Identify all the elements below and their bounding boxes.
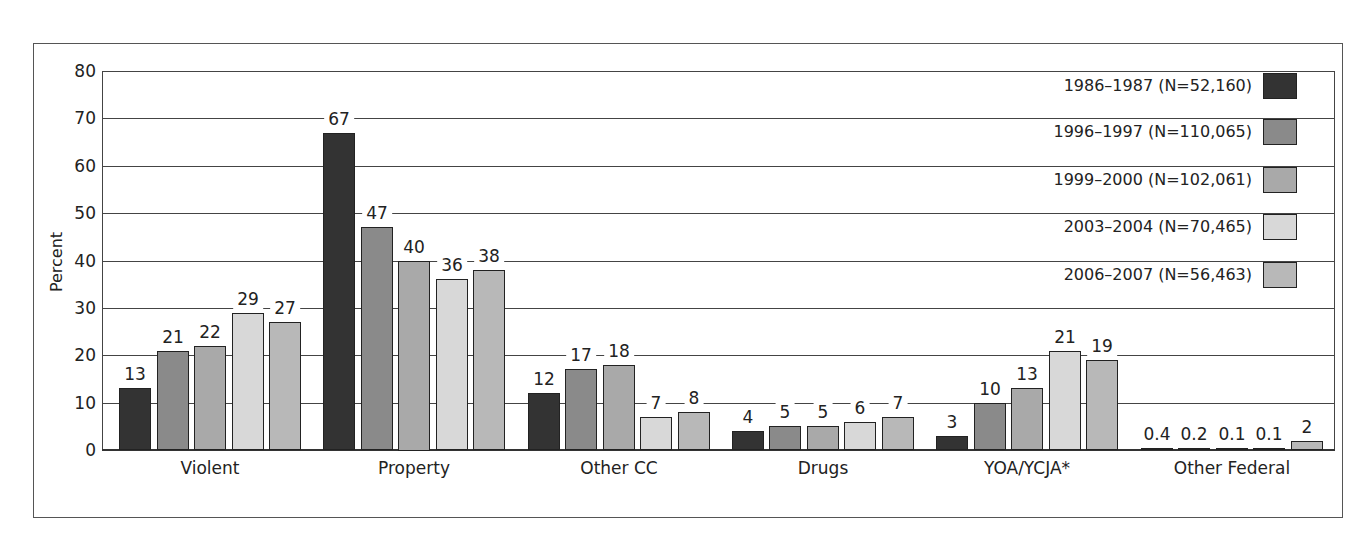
value-label: 22 xyxy=(195,322,225,342)
y-tick-label: 60 xyxy=(36,156,96,176)
y-tick-label: 0 xyxy=(36,440,96,460)
bar xyxy=(936,436,968,450)
bar xyxy=(565,369,597,450)
bar xyxy=(361,227,393,450)
y-tick-label: 30 xyxy=(36,298,96,318)
category-label: Property xyxy=(378,458,450,478)
bar xyxy=(678,412,710,450)
bar xyxy=(269,322,301,450)
value-label: 13 xyxy=(120,364,150,384)
category-label: Other CC xyxy=(580,458,657,478)
gridline xyxy=(102,261,1335,262)
bar xyxy=(1141,448,1173,450)
value-label: 0.1 xyxy=(1251,424,1286,444)
y-tick-label: 40 xyxy=(36,251,96,271)
value-label: 2 xyxy=(1298,417,1317,437)
value-label: 7 xyxy=(647,393,666,413)
bar xyxy=(1253,448,1285,450)
gridline xyxy=(102,166,1335,167)
bar xyxy=(194,346,226,450)
value-label: 47 xyxy=(362,203,392,223)
y-tick-label: 50 xyxy=(36,203,96,223)
bar xyxy=(1291,441,1323,450)
bar xyxy=(807,426,839,450)
bar xyxy=(323,133,355,450)
legend-label: 2003–2004 (N=70,465) xyxy=(1058,217,1252,237)
y-axis-label: Percent xyxy=(47,232,66,292)
value-label: 18 xyxy=(604,341,634,361)
value-label: 10 xyxy=(975,379,1005,399)
y-tick-label: 20 xyxy=(36,345,96,365)
legend-label: 1999–2000 (N=102,061) xyxy=(1047,170,1252,190)
category-label: YOA/YCJA* xyxy=(984,458,1070,478)
legend-label: 1986–1987 (N=52,160) xyxy=(1058,76,1252,96)
value-label: 17 xyxy=(566,345,596,365)
bar xyxy=(769,426,801,450)
legend-label: 1996–1997 (N=110,065) xyxy=(1047,122,1252,142)
y-tick-label: 70 xyxy=(36,108,96,128)
bar xyxy=(640,417,672,450)
bar xyxy=(974,403,1006,450)
value-label: 27 xyxy=(270,298,300,318)
bar xyxy=(398,261,430,451)
bar xyxy=(603,365,635,450)
gridline xyxy=(102,118,1335,119)
y-tick-label: 80 xyxy=(36,61,96,81)
gridline xyxy=(102,213,1335,214)
value-label: 0.1 xyxy=(1214,424,1249,444)
value-label: 0.4 xyxy=(1139,424,1174,444)
value-label: 12 xyxy=(529,369,559,389)
legend-swatch xyxy=(1263,167,1297,193)
bar xyxy=(119,388,151,450)
legend-swatch xyxy=(1263,73,1297,99)
value-label: 21 xyxy=(158,327,188,347)
value-label: 8 xyxy=(685,388,704,408)
bar xyxy=(473,270,505,450)
bar xyxy=(1178,448,1210,450)
value-label: 0.2 xyxy=(1176,424,1211,444)
value-label: 5 xyxy=(814,402,833,422)
legend-swatch xyxy=(1263,214,1297,240)
value-label: 7 xyxy=(889,393,908,413)
value-label: 4 xyxy=(739,407,758,427)
value-label: 6 xyxy=(851,398,870,418)
category-label: Violent xyxy=(180,458,239,478)
category-label: Other Federal xyxy=(1174,458,1290,478)
bar xyxy=(882,417,914,450)
bar xyxy=(232,313,264,450)
legend-swatch xyxy=(1263,119,1297,145)
bar xyxy=(1049,351,1081,450)
legend-label: 2006–2007 (N=56,463) xyxy=(1058,265,1252,285)
value-label: 19 xyxy=(1087,336,1117,356)
bar xyxy=(1216,448,1248,450)
y-tick-label: 10 xyxy=(36,393,96,413)
category-label: Drugs xyxy=(798,458,849,478)
value-label: 67 xyxy=(324,109,354,129)
bar xyxy=(436,279,468,450)
value-label: 5 xyxy=(776,402,795,422)
value-label: 29 xyxy=(233,289,263,309)
legend-swatch xyxy=(1263,262,1297,288)
value-label: 3 xyxy=(943,412,962,432)
value-label: 40 xyxy=(399,237,429,257)
value-label: 38 xyxy=(474,246,504,266)
value-label: 13 xyxy=(1012,364,1042,384)
value-label: 36 xyxy=(437,255,467,275)
bar xyxy=(528,393,560,450)
bar xyxy=(157,351,189,450)
bar xyxy=(732,431,764,450)
bar xyxy=(844,422,876,450)
bar xyxy=(1086,360,1118,450)
value-label: 21 xyxy=(1050,327,1080,347)
bar xyxy=(1011,388,1043,450)
